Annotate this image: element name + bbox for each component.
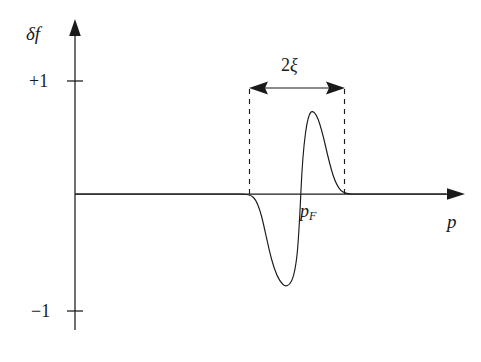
fermi-momentum-label: pF bbox=[300, 202, 316, 222]
width-measure-arrow bbox=[249, 82, 345, 95]
x-axis-arrowhead bbox=[447, 188, 465, 200]
figure-container: δf p pF 2ξ +1 −1 bbox=[0, 0, 481, 362]
shell-width-label: 2ξ bbox=[281, 56, 298, 74]
delta-f-curve bbox=[76, 112, 446, 286]
y-axis bbox=[69, 19, 81, 330]
shell-width-prefix: 2 bbox=[281, 55, 290, 75]
shell-boundary-lines bbox=[250, 88, 345, 194]
x-axis-label: p bbox=[447, 212, 457, 231]
fermi-momentum-symbol: p bbox=[300, 201, 309, 221]
fermi-momentum-subscript: F bbox=[309, 209, 316, 223]
y-axis-label: δf bbox=[26, 24, 40, 43]
y-tick-label-plus-one: +1 bbox=[29, 72, 48, 90]
plot-canvas bbox=[0, 0, 481, 362]
xi-symbol: ξ bbox=[290, 55, 298, 75]
data-curve-group bbox=[76, 112, 446, 286]
y-axis-arrowhead bbox=[69, 19, 81, 36]
y-tick-label-minus-one: −1 bbox=[31, 302, 50, 320]
